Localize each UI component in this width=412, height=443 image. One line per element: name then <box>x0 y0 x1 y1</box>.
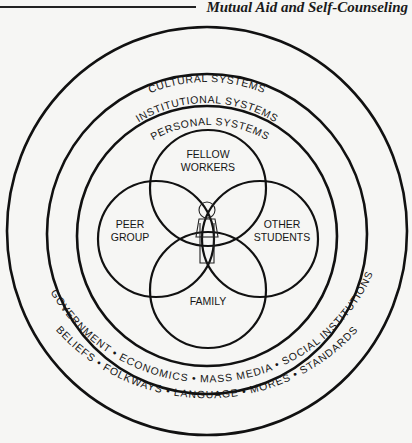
fellow-workers-label-line2: WORKERS <box>181 161 235 173</box>
other-students-label-line1: OTHER <box>264 218 301 230</box>
peer-group-label-line2: GROUP <box>111 231 150 243</box>
other-students-label-line2: STUDENTS <box>254 231 311 243</box>
social-systems-diagram: CULTURAL SYSTEMS INSTITUTIONAL SYSTEMS P… <box>0 0 412 443</box>
cultural-systems-label: CULTURAL SYSTEMS <box>146 72 267 95</box>
fellow-workers-label-line1: FELLOW <box>186 148 229 160</box>
peer-group-label-line1: PEER <box>116 218 145 230</box>
personal-systems-label: PERSONAL SYSTEMS <box>148 115 272 142</box>
family-label: FAMILY <box>190 295 227 307</box>
family-circle <box>150 232 266 348</box>
